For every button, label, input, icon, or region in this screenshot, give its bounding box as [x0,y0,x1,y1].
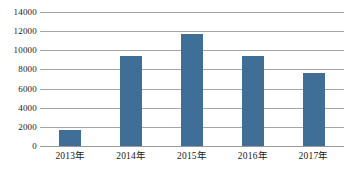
y-axis-tick-label: 2000 [18,122,37,132]
y-axis-tick-label: 0 [32,141,37,151]
bar [181,34,203,146]
y-axis-tick-label: 4000 [18,103,37,113]
plot-area [40,12,344,146]
x-axis-tick-label: 2014年 [116,148,146,162]
y-axis-tick-label: 6000 [18,84,37,94]
bar [303,73,325,146]
bar-series [40,12,344,146]
x-axis-tick-label: 2017年 [299,148,329,162]
y-axis-tick-label: 10000 [14,45,38,55]
bar-chart: 02000400060008000100001200014000 2013年20… [0,0,348,170]
x-axis-labels: 2013年2014年2015年2016年2017年 [40,148,344,168]
x-axis-tick-label: 2013年 [55,148,85,162]
y-axis-tick-label: 8000 [18,64,37,74]
y-axis-tick-label: 14000 [14,7,38,17]
bar [242,56,264,146]
y-axis-labels: 02000400060008000100001200014000 [0,0,40,170]
x-axis-tick-label: 2016年 [238,148,268,162]
axis-baseline [40,146,344,147]
bar [120,56,142,146]
x-axis-tick-label: 2015年 [177,148,207,162]
bar [59,130,81,146]
y-axis-tick-label: 12000 [14,26,38,36]
